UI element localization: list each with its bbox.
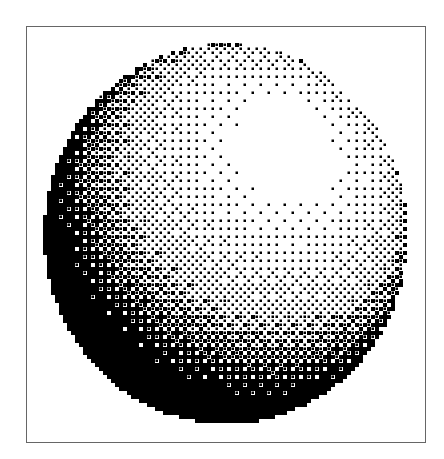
- dithered-sphere-image: [27, 27, 425, 442]
- image-frame: [26, 26, 426, 443]
